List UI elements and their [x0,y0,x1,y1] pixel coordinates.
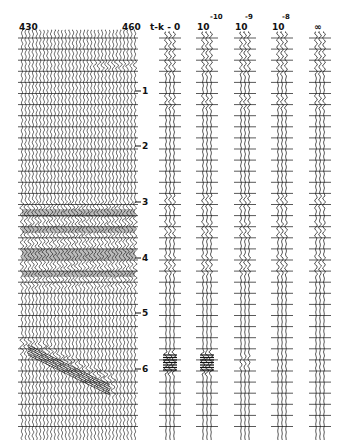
seismic-traces [0,0,339,447]
